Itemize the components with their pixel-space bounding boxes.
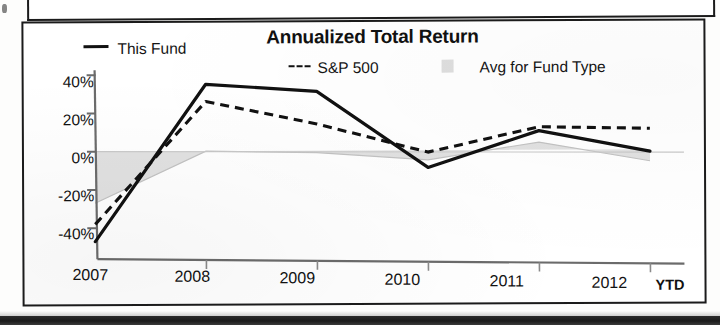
x-axis-tick-label: 2009: [279, 269, 315, 287]
x-axis-tick-label: 2012: [591, 274, 627, 292]
scan-bottom-band: [0, 316, 720, 325]
scan-artifact-speck: [2, 4, 7, 13]
x-axis-tick-label: 2011: [489, 272, 524, 290]
annualized-total-return-chart-panel: Annualized Total Return This Fund S&P 50…: [21, 19, 706, 307]
scanned-page: Annualized Total Return This Fund S&P 50…: [0, 0, 720, 325]
x-axis-tick-label: 2007: [72, 266, 108, 284]
chart-plot-area: [23, 21, 704, 305]
avg-for-fund-type-area: [95, 142, 650, 204]
x-axis-tick-label: 2008: [174, 268, 210, 286]
x-axis-tick-label: 2010: [384, 271, 420, 289]
x-axis-line: [97, 257, 684, 267]
x-axis-ytd-label: YTD: [656, 277, 685, 293]
y-axis-line: [95, 70, 98, 259]
